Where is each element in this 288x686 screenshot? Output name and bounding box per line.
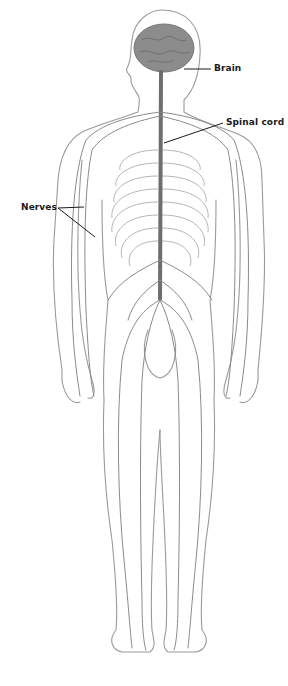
label-brain: Brain [214, 63, 241, 73]
spinal-cord-shape [160, 70, 161, 300]
nerves-leader-line-2 [58, 208, 95, 237]
nervous-system-diagram: Brain Spinal cord Nerves [0, 0, 288, 686]
nerves-leader-line-1 [58, 207, 84, 208]
label-spinal-cord: Spinal cord [226, 117, 284, 127]
body-outline-left [53, 40, 139, 380]
brain-shape [134, 24, 194, 72]
body-illustration [0, 0, 288, 686]
label-nerves: Nerves [21, 202, 57, 212]
